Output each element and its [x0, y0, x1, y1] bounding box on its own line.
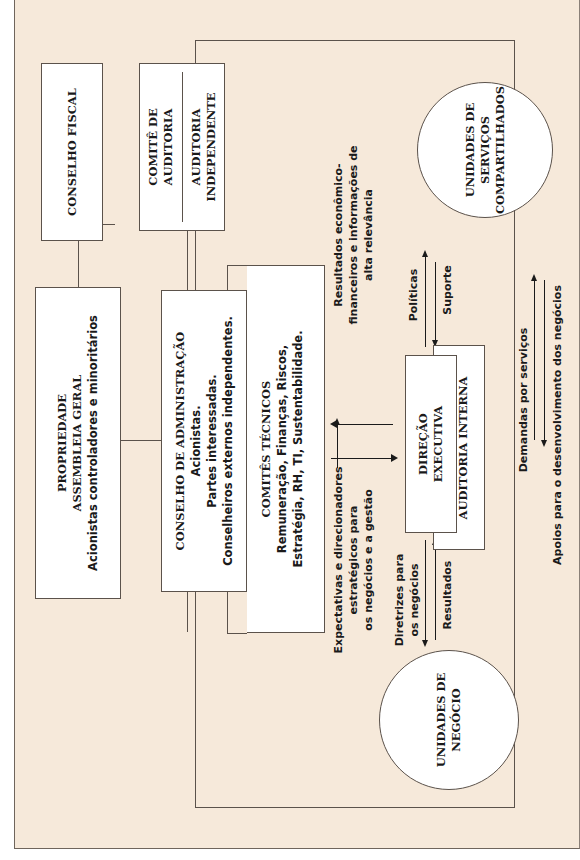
resultados-economicos-line1: Resultados econômico- — [331, 145, 346, 324]
unidades-servicos-line1: UNIDADES DE — [463, 86, 478, 214]
unidades-servicos-line2: SERVIÇOS — [478, 86, 493, 214]
comite-auditoria-line2: AUDITORIA — [161, 108, 176, 185]
assembleia-geral-title: ASSEMBLEIA GERAL — [70, 315, 85, 571]
connector-conselho-adm-bottom — [187, 592, 188, 632]
comites-tecnicos-top-edge — [227, 265, 247, 266]
diretrizes-label: Diretrizes para os negócios — [392, 554, 422, 647]
diagram-page: CONSELHO FISCAL PROPRIEDADE ASSEMBLEIA G… — [14, 0, 580, 849]
unidades-servicos-circle: UNIDADES DE SERVIÇOS COMPARTILHADOS — [417, 82, 553, 218]
comites-tecnicos-title: COMITÊS TÉCNICOS — [259, 330, 274, 567]
arrow-diretrizes-shaft — [425, 540, 426, 640]
propriedade-text: PROPRIEDADE ASSEMBLEIA GERAL Acionistas … — [55, 315, 101, 571]
direcao-executiva-line1: DIREÇÃO — [416, 406, 431, 483]
conselho-administracao-title: CONSELHO DE ADMINISTRAÇÃO — [173, 316, 188, 566]
auditoria-independente-label: AUDITORIA INDEPENDENTE — [189, 92, 219, 201]
conselho-adm-line4: Conselheiros externos independentes. — [220, 316, 236, 566]
conselho-fiscal-label: CONSELHO FISCAL — [65, 88, 80, 216]
comite-auditoria-half: COMITÊ DE AUDITORIA — [140, 64, 182, 230]
arrow-expectativas-line — [331, 458, 391, 459]
arrow-diretrizes-down-icon — [422, 640, 428, 647]
politicas-label: Políticas — [406, 269, 421, 322]
propriedade-box: PROPRIEDADE ASSEMBLEIA GERAL Acionistas … — [35, 287, 121, 599]
arrow-resultados-shaft — [435, 545, 436, 640]
expectativas-line1: Expectativas e direcionadores — [331, 467, 346, 654]
arrow-demandas-shaft — [534, 280, 535, 440]
propriedade-title: PROPRIEDADE — [55, 315, 70, 571]
unidades-negocio-line2: NEGÓCIO — [449, 673, 464, 768]
arrow-apoios-shaft — [544, 280, 545, 440]
arrow-resultados-economicos-line — [337, 424, 393, 425]
diretrizes-line2: os negócios — [407, 554, 422, 647]
comites-tecnicos-line2: Remuneração, Finanças, Riscos, — [274, 330, 290, 567]
suporte-label: Suporte — [440, 265, 455, 314]
auditoria-independente-line1: AUDITORIA — [189, 92, 204, 201]
expectativas-line2: estratégicos para — [346, 467, 361, 654]
acionistas-line: Acionistas controladores e minoritários — [85, 315, 101, 571]
comites-tecnicos-left-top — [227, 265, 228, 290]
arrow-left-icon — [330, 420, 337, 428]
comites-tecnicos-line3: Estratégia, RH, TI, Sustentabilidade. — [290, 330, 306, 567]
connector-fiscal-to-propriedade — [78, 241, 79, 287]
auditoria-independente-line2: INDEPENDENTE — [204, 92, 219, 201]
expectativas-line3: os negócios e a gestão — [361, 467, 376, 654]
connector-propriedade-conselho-adm — [121, 440, 165, 441]
comites-tecnicos-bottom-edge — [227, 633, 247, 634]
comites-tecnicos-left-bottom — [227, 592, 228, 633]
expectativas-label: Expectativas e direcionadores estratégic… — [331, 467, 376, 654]
resultados-economicos-line2: financeiros e informações de — [346, 145, 361, 324]
direcao-executiva-line2: EXECUTIVA — [431, 406, 446, 483]
connector-auditoria-conselho-adm — [187, 230, 188, 290]
unidades-negocio-circle: UNIDADES DE NEGÓCIO — [379, 650, 519, 790]
comite-auditoria-line1: COMITÊ DE — [146, 108, 161, 185]
arrow-resultados-economicos-shaft — [337, 424, 338, 468]
arrow-politicas-up-icon — [422, 250, 428, 257]
unidades-negocio-label: UNIDADES DE NEGÓCIO — [434, 673, 464, 768]
resultados-economicos-line3: alta relevância — [361, 145, 376, 324]
conselho-fiscal-box: CONSELHO FISCAL — [41, 63, 103, 241]
diretrizes-line1: Diretrizes para — [392, 554, 407, 647]
unidades-servicos-label: UNIDADES DE SERVIÇOS COMPARTILHADOS — [463, 86, 508, 214]
comites-tecnicos-text: COMITÊS TÉCNICOS Remuneração, Finanças, … — [259, 330, 306, 567]
auditoria-interna-label: AUDITORIA INTERNA — [456, 376, 471, 519]
direcao-executiva-label: DIREÇÃO EXECUTIVA — [416, 406, 446, 483]
conselho-administracao-box: CONSELHO DE ADMINISTRAÇÃO Acionistas. Pa… — [161, 290, 247, 592]
comite-auditoria-box: COMITÊ DE AUDITORIA AUDITORIA INDEPENDEN… — [139, 63, 225, 231]
unidades-negocio-line1: UNIDADES DE — [434, 673, 449, 768]
arrow-apoios-down-icon — [541, 440, 547, 447]
comite-auditoria-label: COMITÊ DE AUDITORIA — [146, 108, 176, 185]
conselho-administracao-text: CONSELHO DE ADMINISTRAÇÃO Acionistas. Pa… — [173, 316, 236, 566]
resultados-economicos-label: Resultados econômico- financeiros e info… — [331, 145, 376, 324]
apoios-label: Apoios para o desenvolvimento dos negóci… — [550, 285, 565, 565]
comites-tecnicos-box: COMITÊS TÉCNICOS Remuneração, Finanças, … — [247, 265, 325, 633]
resultados-label: Resultados — [440, 561, 455, 630]
arrow-suporte-shaft — [435, 262, 436, 342]
arrow-politicas-shaft — [425, 255, 426, 347]
auditoria-independente-half: AUDITORIA INDEPENDENTE — [182, 64, 226, 230]
conselho-adm-line3: Partes interessadas. — [204, 316, 220, 566]
arrow-right-icon — [391, 454, 398, 462]
arrow-demandas-up-icon — [531, 274, 537, 281]
direcao-executiva-box: DIREÇÃO EXECUTIVA — [405, 355, 457, 533]
demandas-label: Demandas por serviços — [516, 328, 531, 473]
conselho-adm-line2: Acionistas. — [188, 316, 204, 566]
unidades-servicos-line3: COMPARTILHADOS — [493, 86, 508, 214]
